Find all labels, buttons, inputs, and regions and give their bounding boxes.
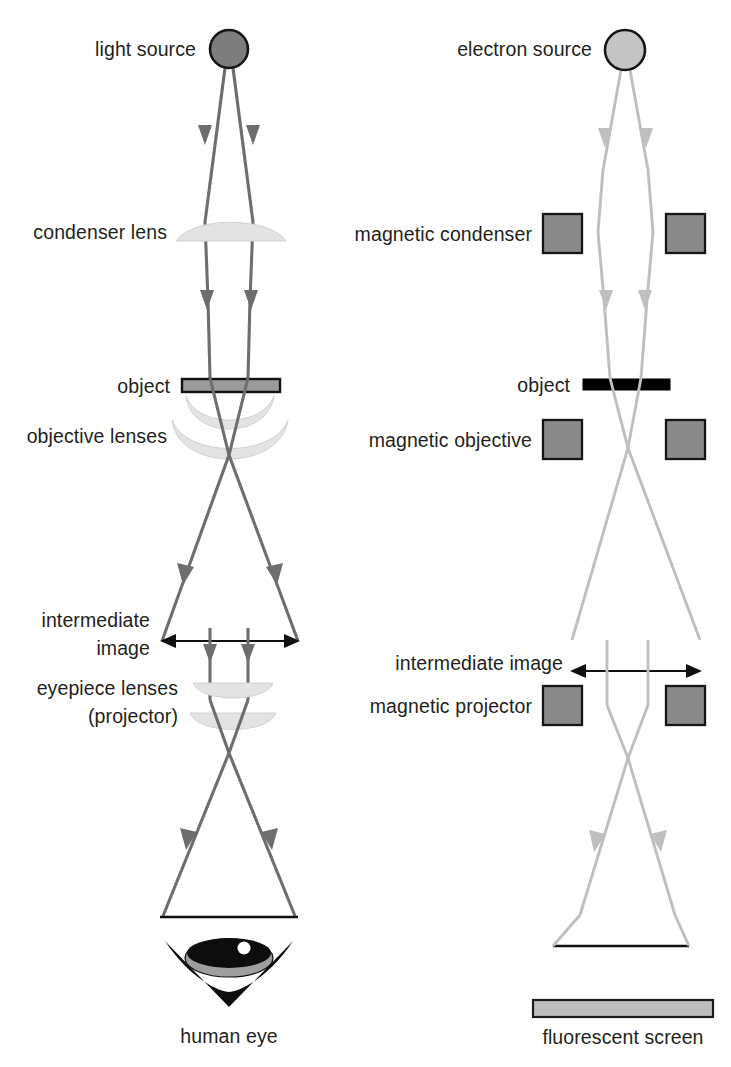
label-eyepiece-lenses-line2: (projector) (88, 705, 178, 727)
electron-ray-bundle-lower (580, 705, 675, 915)
ray-arrow-icon (244, 290, 258, 310)
ray-arrow-icon (599, 290, 613, 310)
ray-arrow-icon (198, 125, 212, 145)
label-eyepiece-lenses-line1: eyepiece lenses (37, 677, 178, 699)
label-object-right: object (517, 374, 570, 396)
light-ray-bundle-lower (163, 700, 295, 916)
label-intermediate-image-line2: image (96, 637, 150, 659)
label-condenser-lens: condenser lens (33, 221, 167, 243)
label-fluorescent-screen: fluorescent screen (542, 1026, 703, 1048)
magnetic-condenser-coil-left (543, 214, 582, 253)
light-microscope-column: light source condenser lens object objec… (27, 38, 300, 1047)
ray-arrow-icon (200, 290, 214, 310)
light-source-circle (210, 30, 248, 68)
condenser-lens-shape (176, 222, 286, 241)
eyepiece-lens-upper-shape (193, 683, 273, 698)
electron-source-circle (605, 30, 645, 70)
label-intermediate-image-right: intermediate image (395, 652, 563, 674)
label-object-left: object (117, 375, 170, 397)
label-magnetic-projector: magnetic projector (370, 695, 533, 717)
magnetic-condenser-coil-right (666, 214, 705, 253)
ray-arrow-icon (246, 125, 260, 145)
label-human-eye: human eye (180, 1025, 277, 1047)
magnetic-projector-coil-left (543, 686, 582, 725)
objective-lens-upper-shape (186, 396, 274, 429)
object-bar-electron (583, 379, 670, 390)
ray-arrow-icon (203, 644, 217, 663)
intermediate-image-dimension-right (570, 664, 702, 678)
electron-ray-bundle-upper (598, 70, 653, 378)
human-eye-icon (165, 938, 293, 1007)
ray-arrow-icon (638, 290, 652, 310)
ray-arrow-icon (177, 563, 194, 585)
object-slide-bar (182, 379, 280, 392)
ray-arrow-icon (241, 644, 255, 663)
light-ray-bundle-objective (162, 378, 298, 641)
label-magnetic-condenser: magnetic condenser (355, 223, 533, 245)
microscope-comparison-diagram: light source condenser lens object objec… (0, 0, 731, 1067)
label-magnetic-objective: magnetic objective (369, 429, 532, 451)
fluorescent-screen-bar (533, 1000, 713, 1017)
magnetic-objective-coil-left (543, 420, 582, 459)
label-objective-lenses: objective lenses (27, 425, 167, 447)
electron-ray-bundle-projector-in (607, 640, 648, 705)
magnetic-projector-coil-right (666, 686, 705, 725)
eyepiece-lens-lower-shape (190, 713, 276, 730)
label-intermediate-image-line1: intermediate (41, 609, 150, 631)
electron-ray-bundle-objective (572, 378, 700, 640)
label-electron-source: electron source (457, 38, 592, 60)
electron-microscope-column: electron source magnetic condenser objec… (355, 38, 713, 1048)
label-light-source: light source (95, 38, 196, 60)
magnetic-objective-coil-right (666, 420, 705, 459)
intermediate-image-dimension (160, 634, 300, 648)
